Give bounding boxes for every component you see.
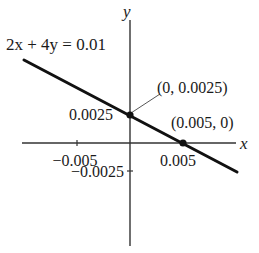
x-tick-label-neg: −0.005: [52, 152, 97, 169]
y-intercept-point: [126, 111, 133, 118]
point-label-leader: [131, 94, 160, 113]
graph-canvas: y x 2x + 4y = 0.01 0.0025 −0.0025 −0.005…: [0, 0, 259, 253]
x-tick-label-pos: 0.005: [160, 152, 196, 169]
x-axis-label: x: [239, 134, 248, 153]
equation-text: 2x + 4y = 0.01: [6, 35, 106, 54]
y-axis-label: y: [121, 2, 131, 21]
y-intercept-label: (0, 0.0025): [157, 79, 228, 97]
y-tick-label-pos: 0.0025: [69, 106, 113, 123]
x-intercept-label: (0.005, 0): [171, 114, 234, 132]
equation-label: 2x + 4y = 0.01: [6, 35, 106, 54]
x-intercept-point: [179, 139, 186, 146]
